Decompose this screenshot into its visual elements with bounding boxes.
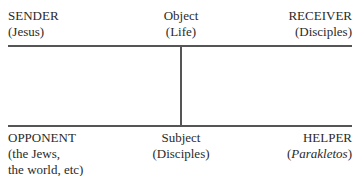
receiver-role: RECEIVER [288,8,352,24]
object-label: Object (Life) [164,8,199,40]
opponent-value-line2: the world, etc) [8,162,83,176]
sender-label: SENDER (Jesus) [8,8,59,40]
opponent-role: OPPONENT [8,130,83,146]
center-vertical-line [180,45,182,126]
helper-role: HELPER [287,130,352,146]
helper-label: HELPER (Parakletos) [287,130,352,162]
receiver-label: RECEIVER (Disciples) [288,8,352,40]
sender-role: SENDER [8,8,59,24]
subject-role: Subject [152,130,209,146]
helper-value: (Parakletos) [287,146,352,162]
object-value: (Life) [164,24,199,40]
bottom-horizontal-line [8,125,352,127]
opponent-label: OPPONENT (the Jews, the world, etc) [8,130,83,176]
opponent-value-line1: (the Jews, [8,146,83,162]
sender-value: (Jesus) [8,24,59,40]
subject-label: Subject (Disciples) [152,130,209,162]
object-role: Object [164,8,199,24]
helper-paren-close: ) [348,146,352,161]
subject-value: (Disciples) [152,146,209,162]
helper-value-italic: Parakletos [291,146,347,161]
receiver-value: (Disciples) [288,24,352,40]
